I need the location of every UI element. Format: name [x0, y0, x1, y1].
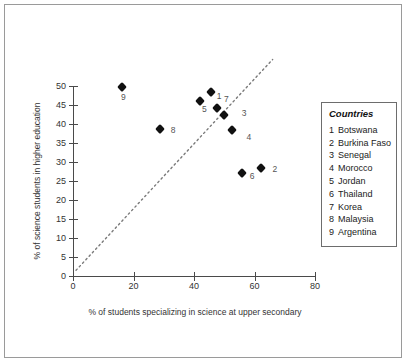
plot-area: 05101520253035404550 020406080 123456789 [73, 86, 315, 276]
legend-item: 4Morocco [329, 162, 390, 175]
y-axis-title: % of science students in higher educatio… [31, 86, 43, 276]
y-tick-label: 10 [56, 234, 66, 243]
legend: Countries 1Botswana2Burkina Faso3Senegal… [321, 102, 397, 247]
data-point-marker [227, 125, 237, 135]
x-tick-mark [315, 272, 316, 281]
legend-item-label: Morocco [338, 163, 373, 173]
legend-item-label: Thailand [338, 189, 373, 199]
y-tick-mark [69, 124, 78, 125]
y-tick-label: 25 [56, 177, 66, 186]
data-point-label: 4 [247, 133, 252, 142]
legend-item-label: Jordan [338, 176, 366, 186]
y-tick-mark [69, 86, 78, 87]
legend-title: Countries [329, 109, 390, 120]
data-point-marker [219, 110, 229, 120]
x-tick-label: 40 [189, 282, 199, 291]
legend-item-label: Burkina Faso [338, 138, 391, 148]
x-tick-label: 60 [249, 282, 259, 291]
legend-item: 6Thailand [329, 188, 390, 201]
data-point-label: 6 [250, 172, 255, 181]
x-tick-mark [255, 272, 256, 281]
y-tick-label: 50 [56, 82, 66, 91]
data-point-label: 8 [171, 126, 176, 135]
y-tick-label: 40 [56, 120, 66, 129]
legend-item: 2Burkina Faso [329, 137, 390, 150]
data-point-marker [256, 163, 266, 173]
x-tick-mark [73, 272, 74, 281]
legend-item-key: 5 [329, 175, 338, 188]
legend-item-key: 9 [329, 226, 338, 239]
legend-item-label: Korea [338, 202, 362, 212]
y-tick-label: 35 [56, 139, 66, 148]
legend-item-key: 3 [329, 149, 338, 162]
data-point-marker [155, 124, 165, 134]
data-point-marker [212, 103, 222, 113]
data-point-marker [117, 82, 127, 92]
x-tick-label: 0 [70, 282, 75, 291]
y-tick-label: 0 [61, 272, 66, 281]
legend-item-key: 6 [329, 188, 338, 201]
y-tick-mark [69, 143, 78, 144]
x-tick-mark [194, 272, 195, 281]
legend-item-label: Botswana [338, 125, 378, 135]
legend-item-label: Malaysia [338, 214, 374, 224]
y-tick-mark [69, 105, 78, 106]
legend-item: 1Botswana [329, 124, 390, 137]
y-tick-label: 45 [56, 101, 66, 110]
data-point-marker [206, 87, 216, 97]
legend-item-key: 1 [329, 124, 338, 137]
legend-item: 5Jordan [329, 175, 390, 188]
legend-item: 9Argentina [329, 226, 390, 239]
x-axis-title: % of students specializing in science at… [55, 307, 335, 317]
trend-line [73, 56, 316, 278]
data-point-marker [237, 168, 247, 178]
figure-frame: % of science students in higher educatio… [4, 4, 402, 358]
y-tick-label: 5 [61, 253, 66, 262]
y-tick-label: 30 [56, 158, 66, 167]
y-tick-mark [69, 181, 78, 182]
data-point-label: 5 [202, 105, 207, 114]
y-tick-label: 20 [56, 196, 66, 205]
data-point-label: 7 [224, 95, 229, 104]
legend-items: 1Botswana2Burkina Faso3Senegal4Morocco5J… [329, 124, 390, 239]
legend-item-label: Senegal [338, 150, 371, 160]
x-tick-label: 20 [128, 282, 138, 291]
data-point-label: 9 [121, 93, 126, 102]
y-tick-mark [69, 162, 78, 163]
data-point-label: 2 [273, 165, 278, 174]
legend-item-key: 7 [329, 201, 338, 214]
y-tick-label: 15 [56, 215, 66, 224]
y-tick-mark [69, 257, 78, 258]
x-tick-label: 80 [310, 282, 320, 291]
data-point-label: 1 [217, 92, 222, 101]
legend-item: 8Malaysia [329, 213, 390, 226]
y-tick-mark [69, 219, 78, 220]
legend-item: 7Korea [329, 201, 390, 214]
legend-item: 3Senegal [329, 149, 390, 162]
legend-item-label: Argentina [338, 227, 377, 237]
legend-item-key: 2 [329, 137, 338, 150]
x-tick-mark [134, 272, 135, 281]
data-point-label: 3 [242, 109, 247, 118]
y-tick-mark [69, 238, 78, 239]
legend-item-key: 8 [329, 213, 338, 226]
y-tick-mark [69, 200, 78, 201]
legend-item-key: 4 [329, 162, 338, 175]
